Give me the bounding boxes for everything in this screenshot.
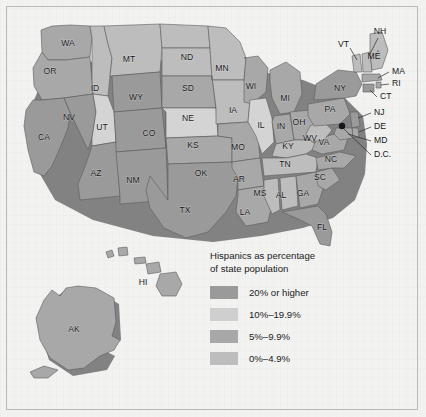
state-label-CO: CO bbox=[143, 128, 156, 138]
legend-row: 0%–4.9% bbox=[210, 351, 380, 366]
callout-label-DE: DE bbox=[374, 121, 386, 131]
state-label-SC: SC bbox=[314, 172, 326, 182]
legend-swatch bbox=[210, 286, 238, 299]
state-label-NY: NY bbox=[334, 83, 346, 93]
callout-label-VT: VT bbox=[338, 39, 350, 49]
state-label-KS: KS bbox=[187, 140, 199, 150]
legend-swatch bbox=[210, 352, 238, 365]
state-label-HI: HI bbox=[139, 277, 148, 287]
callout-label-MA: MA bbox=[392, 66, 405, 76]
state-label-LA: LA bbox=[240, 207, 251, 217]
state-ND[interactable] bbox=[160, 24, 210, 48]
legend-label: 0%–4.9% bbox=[249, 353, 290, 364]
state-label-MT: MT bbox=[123, 54, 136, 64]
callout-label-NJ: NJ bbox=[374, 107, 385, 117]
state-label-WA: WA bbox=[61, 38, 75, 48]
state-label-PA: PA bbox=[325, 104, 336, 114]
callout-label-CT: CT bbox=[380, 91, 392, 101]
state-label-UT: UT bbox=[96, 122, 108, 132]
state-MA[interactable] bbox=[362, 74, 382, 82]
state-label-AZ: AZ bbox=[91, 168, 102, 178]
state-label-OH: OH bbox=[293, 117, 306, 127]
map-figure: WAORCANVIDMTWYUTAZCONMNDSDNEKSOKTXMNIAMO… bbox=[0, 0, 426, 417]
state-label-AR: AR bbox=[233, 174, 245, 184]
state-CO[interactable] bbox=[114, 108, 166, 152]
dc-marker-dot[interactable] bbox=[339, 123, 345, 129]
state-label-FL: FL bbox=[317, 222, 327, 232]
legend-swatch bbox=[210, 330, 238, 343]
state-label-ID: ID bbox=[91, 83, 100, 93]
state-group-hawaii bbox=[106, 247, 182, 296]
state-label-NE: NE bbox=[182, 113, 194, 123]
state-label-OK: OK bbox=[195, 168, 208, 178]
state-HI-maui[interactable] bbox=[146, 262, 161, 274]
state-label-OR: OR bbox=[44, 66, 57, 76]
state-label-MN: MN bbox=[215, 63, 228, 73]
leader-RI bbox=[381, 84, 389, 85]
state-OK[interactable] bbox=[166, 136, 232, 164]
legend-swatch bbox=[210, 308, 238, 321]
state-HI-kauai[interactable] bbox=[106, 250, 114, 258]
state-AK-aleutians[interactable] bbox=[30, 366, 58, 378]
state-label-WY: WY bbox=[129, 92, 143, 102]
state-label-SD: SD bbox=[182, 83, 194, 93]
callout-label-ME: ME bbox=[368, 51, 381, 61]
legend-label: 20% or higher bbox=[249, 287, 309, 298]
callout-label-RI: RI bbox=[392, 78, 401, 88]
state-label-GA: GA bbox=[297, 188, 310, 198]
state-RI[interactable] bbox=[376, 82, 381, 88]
state-label-VA: VA bbox=[319, 137, 330, 147]
state-label-MS: MS bbox=[254, 188, 267, 198]
legend-row: 10%–19.9% bbox=[210, 307, 380, 322]
map-legend: Hispanics as percentage of state populat… bbox=[210, 250, 380, 373]
state-label-TX: TX bbox=[180, 205, 191, 215]
state-HI-molokai[interactable] bbox=[134, 257, 146, 264]
state-label-MI: MI bbox=[280, 93, 290, 103]
callout-label-DC: D.C. bbox=[374, 149, 391, 159]
state-label-AK: AK bbox=[68, 324, 80, 334]
state-label-WI: WI bbox=[246, 81, 257, 91]
state-label-NM: NM bbox=[126, 175, 139, 185]
state-label-KY: KY bbox=[282, 141, 294, 151]
state-label-NC: NC bbox=[325, 154, 337, 164]
legend-label: 10%–19.9% bbox=[249, 309, 301, 320]
state-label-IL: IL bbox=[257, 120, 264, 130]
state-VT[interactable] bbox=[352, 54, 362, 72]
callout-label-NH: NH bbox=[374, 26, 386, 36]
state-label-TN: TN bbox=[279, 159, 290, 169]
state-CT[interactable] bbox=[363, 84, 374, 92]
state-HI-bigisle[interactable] bbox=[156, 272, 182, 296]
state-label-CA: CA bbox=[38, 132, 50, 142]
legend-row: 20% or higher bbox=[210, 285, 380, 300]
state-MT[interactable] bbox=[104, 24, 162, 76]
legend-title: Hispanics as percentage of state populat… bbox=[210, 250, 380, 275]
legend-row: 5%–9.9% bbox=[210, 329, 380, 344]
state-label-ND: ND bbox=[181, 52, 193, 62]
legend-rows: 20% or higher10%–19.9%5%–9.9%0%–4.9% bbox=[210, 285, 380, 366]
state-label-NV: NV bbox=[63, 112, 75, 122]
state-label-MO: MO bbox=[231, 142, 245, 152]
legend-label: 5%–9.9% bbox=[249, 331, 290, 342]
state-label-AL: AL bbox=[276, 190, 287, 200]
state-label-IN: IN bbox=[277, 121, 286, 131]
state-HI-oahu[interactable] bbox=[118, 247, 128, 256]
state-label-IA: IA bbox=[229, 105, 237, 115]
state-NJ[interactable] bbox=[350, 112, 360, 128]
state-label-WV: WV bbox=[303, 133, 317, 143]
callout-label-MD: MD bbox=[374, 135, 387, 145]
